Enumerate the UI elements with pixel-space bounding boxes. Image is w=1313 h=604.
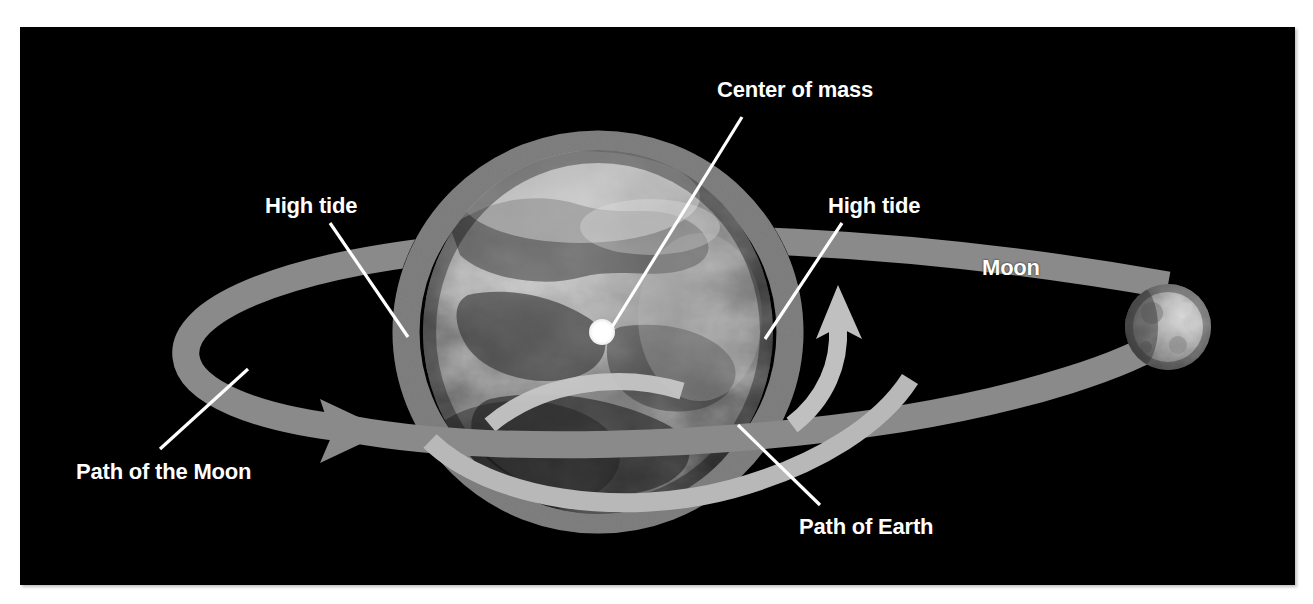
center-of-mass-dot: [589, 319, 615, 345]
earth-path-arrow: [792, 285, 862, 425]
label-path-of-earth: Path of Earth: [799, 516, 933, 538]
diagram-panel: Center of mass High tide High tide Moon …: [20, 27, 1295, 585]
high-tide-left-leader: [330, 223, 408, 337]
label-path-of-the-moon: Path of the Moon: [76, 461, 251, 483]
figure-root: Center of mass High tide High tide Moon …: [0, 0, 1313, 604]
label-moon: Moon: [982, 257, 1040, 279]
label-high-tide-right: High tide: [828, 195, 920, 217]
label-center-of-mass: Center of mass: [717, 79, 873, 101]
label-high-tide-left: High tide: [265, 195, 357, 217]
scene-illustration: [20, 27, 1295, 585]
